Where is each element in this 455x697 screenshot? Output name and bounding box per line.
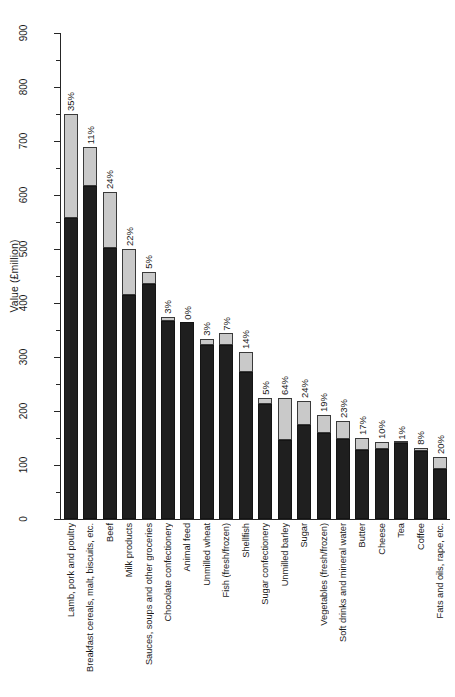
y-tick-major [54, 465, 60, 466]
bar-segment-upper [278, 398, 292, 440]
bar-column: 11% [83, 147, 97, 519]
bar-segment-upper [142, 272, 156, 284]
bar-series-group: 35%11%24%22%5%3%0%3%7%14%5%64%24%19%23%1… [61, 33, 450, 519]
bar-segment-lower [278, 440, 292, 519]
bar-column: 8% [414, 448, 428, 519]
y-tick-minor [56, 384, 60, 385]
bar-column: 7% [219, 333, 233, 519]
bar-segment-upper [239, 352, 253, 373]
y-tick-label: 300 [18, 349, 29, 366]
bar-column: 24% [297, 401, 311, 519]
bar-segment-upper [394, 441, 408, 443]
y-tick-label: 400 [18, 295, 29, 312]
y-tick-major [54, 411, 60, 412]
x-axis-category-labels: Lamb, pork and poultryBreakfast cereals,… [61, 523, 450, 697]
bar-column: 22% [122, 249, 136, 519]
bar-column: 3% [200, 339, 214, 519]
bar-segment-upper [83, 147, 97, 186]
y-tick-major [54, 519, 60, 520]
y-tick-major [54, 141, 60, 142]
category-label: Breakfast cereals, malt, biscuits, etc. [83, 523, 97, 672]
category-label: Unmilled wheat [200, 523, 214, 586]
category-label: Beef [103, 523, 117, 542]
bar-segment-lower [103, 248, 117, 519]
bar-column: 0% [180, 322, 194, 519]
category-label: Coffee [414, 523, 428, 550]
bar-segment-upper [200, 339, 214, 345]
y-tick-minor [56, 222, 60, 223]
y-tick-minor [56, 114, 60, 115]
category-label: Animal feed [180, 523, 194, 572]
bar-segment-lower [375, 449, 389, 519]
y-tick-minor [56, 492, 60, 493]
bar-segment-lower [180, 322, 194, 519]
bar-segment-lower [394, 443, 408, 519]
category-label: Unmilled barley [278, 523, 292, 586]
bar-column: 3% [161, 317, 175, 520]
category-label: Lamb, pork and poultry [64, 523, 78, 617]
y-tick-label: 0 [18, 516, 29, 522]
bar-segment-upper [336, 421, 350, 439]
bar-column: 17% [355, 438, 369, 519]
category-label: Fish (fresh/frozen) [219, 523, 233, 597]
bar-chart: Value (£million) 01002003004005006007008… [0, 0, 455, 697]
y-tick-major [54, 357, 60, 358]
category-label: Chocolate confectionery [161, 523, 175, 622]
bar-segment-lower [433, 469, 447, 519]
y-axis-title: Value (£million) [8, 176, 20, 376]
bar-segment-lower [297, 425, 311, 519]
bar-segment-upper [414, 448, 428, 451]
bar-segment-upper [297, 401, 311, 425]
bar-segment-lower [414, 451, 428, 519]
y-tick-major [54, 249, 60, 250]
category-label: Sugar [297, 523, 311, 548]
bar-column: 5% [142, 272, 156, 519]
y-tick-minor [56, 438, 60, 439]
bar-segment-lower [200, 345, 214, 519]
bar-column: 64% [278, 398, 292, 519]
bar-segment-upper [103, 192, 117, 248]
y-tick-label: 100 [18, 457, 29, 474]
category-label: Fats and oils, rape, etc. [433, 523, 447, 618]
y-tick-major [54, 87, 60, 88]
y-tick-minor [56, 330, 60, 331]
bar-column: 23% [336, 421, 350, 519]
bar-column: 35% [64, 114, 78, 519]
category-label: Tea [394, 523, 408, 538]
bar-segment-lower [142, 284, 156, 519]
bar-column: 10% [375, 442, 389, 519]
category-label: Shellfish [239, 523, 253, 558]
bar-segment-lower [83, 186, 97, 519]
bar-segment-lower [122, 295, 136, 519]
bar-segment-upper [219, 333, 233, 345]
y-tick-major [54, 33, 60, 34]
y-tick-minor [56, 276, 60, 277]
bar-column: 19% [317, 415, 331, 519]
bar-column: 1% [394, 443, 408, 519]
category-label: Vegetables (fresh/frozen) [317, 523, 331, 626]
bar-segment-upper [161, 317, 175, 321]
y-tick-major [54, 303, 60, 304]
bar-segment-lower [219, 345, 233, 519]
bar-column: 20% [433, 457, 447, 519]
y-tick-label: 200 [18, 403, 29, 420]
category-label: Milk products [122, 523, 136, 577]
bar-segment-lower [64, 218, 78, 519]
x-axis-line [60, 519, 450, 520]
y-tick-label: 500 [18, 241, 29, 258]
bar-segment-upper [355, 438, 369, 450]
bar-segment-lower [161, 321, 175, 519]
category-label: Sauces, soups and other groceries [142, 523, 156, 665]
bar-segment-upper [122, 249, 136, 295]
y-tick-minor [56, 60, 60, 61]
category-label: Cheese [375, 523, 389, 555]
y-tick-label: 600 [18, 187, 29, 204]
category-label: Soft drinks and mineral water [336, 523, 350, 642]
bar-column: 14% [239, 352, 253, 519]
category-label: Butter [355, 523, 369, 548]
bar-segment-lower [239, 372, 253, 519]
bar-column: 5% [258, 398, 272, 519]
bar-segment-upper [317, 415, 331, 433]
bar-segment-lower [336, 439, 350, 519]
category-label: Sugar confectionery [258, 523, 272, 605]
